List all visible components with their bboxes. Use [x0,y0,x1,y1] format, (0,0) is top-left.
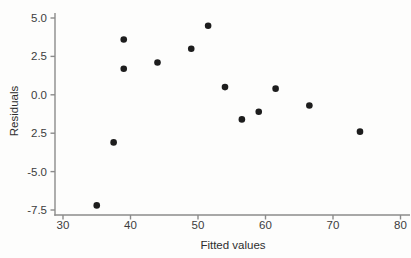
data-point [110,139,117,146]
y-tick-label: 2.5 [31,127,47,139]
data-point [188,45,195,52]
data-point [255,108,262,115]
data-point [154,59,161,66]
data-point [222,84,229,91]
x-tick-label: 50 [192,219,205,231]
plot-area: 3040506070805.02.50.02.5-5.0-7.5 [0,0,411,258]
data-point [120,65,127,72]
y-tick-label: 0.0 [31,89,47,101]
x-tick-label: 80 [394,219,407,231]
y-tick-label: -7.5 [27,204,47,216]
y-tick-label: -5.0 [27,166,47,178]
x-tick-label: 40 [124,219,137,231]
data-point [120,36,127,43]
data-point [239,116,246,123]
y-tick-label: 5.0 [31,12,47,24]
x-tick-label: 70 [327,219,340,231]
data-point [93,202,100,209]
data-point [306,102,313,109]
data-point [357,128,364,135]
x-axis-title: Fitted values [55,239,411,251]
data-point [205,22,212,29]
y-axis-title: Residuals [8,86,20,137]
y-tick-label: 2.5 [31,50,47,62]
scatter-plot-figure: 3040506070805.02.50.02.5-5.0-7.5 Residua… [0,0,411,258]
x-tick-label: 60 [259,219,272,231]
x-tick-label: 30 [57,219,70,231]
data-point [272,85,279,92]
